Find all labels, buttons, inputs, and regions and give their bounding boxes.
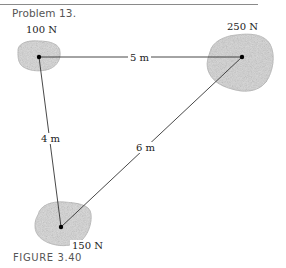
distance-label-4m: 4 m [39,133,62,144]
distance-label-6m: 6 m [134,142,157,153]
weight-label-150n: 150 N [70,240,105,251]
weight-label-100n: 100 N [24,24,59,35]
rock-250n [207,34,273,91]
distance-label-5m: 5 m [128,52,151,63]
center-dot-250n [240,55,244,59]
weight-label-250n: 250 N [225,21,260,32]
center-dot-150n [59,225,63,229]
center-dot-100n [37,55,41,59]
figure-caption: FIGURE 3.40 [13,252,82,263]
